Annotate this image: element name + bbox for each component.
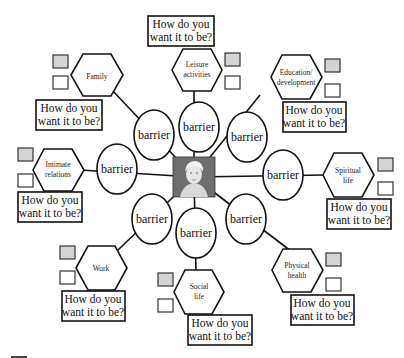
svg-text:Work: Work — [93, 264, 110, 273]
domain-education: Education/ development How do you want i… — [271, 55, 346, 132]
svg-text:want it to be?: want it to be? — [291, 310, 353, 322]
svg-text:barrier: barrier — [267, 168, 299, 182]
svg-text:relations: relations — [45, 170, 71, 179]
svg-text:barrier: barrier — [136, 212, 168, 226]
barrier-intimate[interactable]: barrier — [97, 144, 137, 194]
rating-box-shaded[interactable] — [325, 59, 340, 72]
barrier-social[interactable]: barrier — [176, 208, 216, 258]
domain-label-family: Family — [86, 72, 108, 81]
domain-intimate-relations: Intimate relations How do you want it to… — [18, 148, 84, 222]
svg-text:Leisure: Leisure — [186, 60, 209, 69]
rating-box-shaded[interactable] — [158, 273, 173, 286]
svg-text:want it to be?: want it to be? — [283, 117, 345, 129]
svg-text:development: development — [277, 78, 317, 87]
svg-text:want it to be?: want it to be? — [150, 31, 212, 43]
svg-text:How do you: How do you — [22, 194, 79, 207]
svg-text:barrier: barrier — [231, 130, 263, 144]
svg-text:Physical: Physical — [284, 261, 309, 270]
barrier-spiritual[interactable]: barrier — [263, 150, 303, 200]
rating-box-empty[interactable] — [60, 271, 75, 284]
svg-text:How do you: How do you — [331, 201, 388, 214]
domain-physical-health: Physical health How do you want it to be… — [272, 249, 354, 325]
rating-box-empty[interactable] — [325, 84, 340, 97]
rating-box-empty[interactable] — [18, 174, 33, 187]
svg-text:activities: activities — [183, 70, 210, 79]
svg-text:want it to be?: want it to be? — [38, 115, 100, 127]
rating-box-empty[interactable] — [378, 182, 393, 195]
svg-text:How do you: How do you — [192, 317, 249, 330]
svg-text:How do you: How do you — [286, 104, 343, 117]
svg-text:How do you: How do you — [294, 297, 351, 310]
svg-text:want it to be?: want it to be? — [189, 330, 251, 342]
barrier-family[interactable]: barrier — [134, 110, 174, 160]
svg-text:health: health — [288, 271, 307, 280]
rating-box-empty[interactable] — [53, 76, 68, 89]
svg-text:life: life — [194, 292, 205, 301]
svg-text:want it to be?: want it to be? — [328, 214, 390, 226]
domain-spiritual-life: Spiritual life How do you want it to be? — [323, 153, 393, 229]
center-portrait — [173, 157, 215, 197]
barrier-work[interactable]: barrier — [132, 194, 172, 244]
domain-social-life: Social life How do you want it to be? — [158, 270, 252, 345]
barrier-education[interactable]: barrier — [227, 112, 267, 162]
svg-text:barrier: barrier — [183, 120, 215, 134]
svg-text:barrier: barrier — [138, 128, 170, 142]
svg-text:How do you: How do you — [41, 102, 98, 115]
rating-box-shaded[interactable] — [53, 55, 68, 68]
svg-text:How do you: How do you — [153, 18, 210, 31]
domain-leisure: Leisure activities How do you want it to… — [148, 16, 240, 91]
svg-text:want it to be?: want it to be? — [62, 306, 124, 318]
barrier-leisure[interactable]: barrier — [179, 102, 219, 152]
rating-box-shaded[interactable] — [60, 246, 75, 259]
svg-text:Spiritual: Spiritual — [335, 166, 361, 175]
svg-text:Social: Social — [190, 282, 209, 291]
svg-text:Education/: Education/ — [280, 68, 313, 77]
rating-box-shaded[interactable] — [225, 53, 240, 66]
svg-text:barrier: barrier — [180, 226, 212, 240]
barrier-physical[interactable]: barrier — [226, 194, 266, 244]
rating-box-shaded[interactable] — [378, 158, 393, 171]
rating-box-empty[interactable] — [225, 76, 240, 89]
rating-box-empty[interactable] — [326, 278, 341, 291]
svg-text:How do you: How do you — [65, 293, 122, 306]
svg-text:life: life — [343, 176, 354, 185]
svg-text:Intimate: Intimate — [46, 160, 72, 169]
svg-text:barrier: barrier — [230, 212, 262, 226]
rating-box-empty[interactable] — [158, 299, 173, 312]
life-domains-diagram: Family How do you want it to be? Leisure… — [0, 0, 404, 358]
svg-text:barrier: barrier — [101, 162, 133, 176]
domain-family: Family How do you want it to be? — [36, 54, 123, 130]
domain-work: Work How do you want it to be? — [60, 246, 127, 321]
rating-box-shaded[interactable] — [18, 148, 33, 161]
svg-text:want it to be?: want it to be? — [19, 207, 81, 219]
rating-box-shaded[interactable] — [326, 253, 341, 266]
